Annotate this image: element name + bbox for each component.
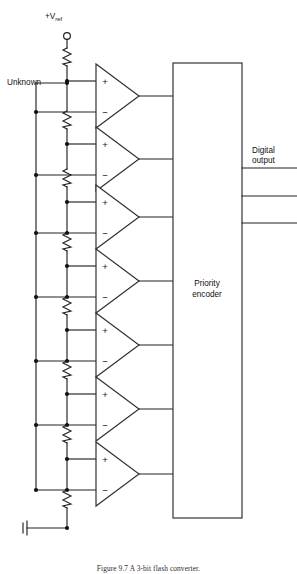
unknown-input-group: Unknown [7, 78, 69, 490]
comparator-2: + − [34, 127, 173, 191]
comparator-1: + − [34, 64, 173, 128]
vref-terminal-group: +Vref [45, 12, 70, 48]
comparator-7-ladder-junction-dot [65, 488, 69, 492]
vref-open-terminal [64, 33, 71, 40]
comparator-3-unknown-tap-dot [34, 231, 38, 235]
comparator-1-unknown-tap-dot [34, 110, 38, 114]
comparator-6-ladder-junction-dot [65, 423, 69, 427]
ground-symbol [23, 521, 27, 535]
comparator-6: + − [34, 377, 173, 441]
figure-caption-text: Figure 9.7 A 3-bit flash converter. [97, 564, 200, 573]
digital-output-label-line1: Digital [252, 146, 275, 155]
resistor-ladder [63, 48, 71, 528]
vref-label: +Vref [45, 12, 62, 22]
comparator-7-minus-sign: − [102, 485, 108, 496]
circuit-schematic: +Vref [0, 0, 297, 574]
comparator-3-plus-sign: + [102, 197, 108, 208]
comparator-2-minus-sign: − [102, 170, 108, 181]
ladder-resistor-2 [63, 111, 71, 129]
priority-encoder-label-line1: Priority [194, 279, 220, 288]
comparator-5-unknown-tap-dot [34, 359, 38, 363]
digital-output-label-line2: output [252, 156, 275, 165]
comparator-7-body [96, 442, 139, 506]
comparator-7-ladder-tap-dot [65, 457, 69, 461]
comparator-6-body [96, 377, 139, 441]
comparator-6-minus-sign: − [102, 420, 108, 431]
comparator-5-minus-sign: − [102, 356, 108, 367]
ladder-resistor-6 [63, 361, 71, 379]
figure-caption: Figure 9.7 A 3-bit flash converter. [0, 564, 297, 573]
vref-label-main: +V [45, 12, 56, 21]
flash-converter-figure: +Vref [0, 0, 297, 574]
comparator-5-plus-sign: + [102, 325, 108, 336]
comparator-1-minus-sign: − [102, 107, 108, 118]
comparator-2-ladder-tap-dot [65, 142, 69, 146]
comparator-4-unknown-tap-dot [34, 295, 38, 299]
ladder-resistor-1 [63, 48, 71, 66]
comparator-2-unknown-tap-dot [34, 173, 38, 177]
comparator-6-ladder-tap-dot [65, 392, 69, 396]
comparator-4-ladder-junction-dot [65, 295, 69, 299]
comparator-5-ladder-junction-dot [65, 359, 69, 363]
ladder-resistor-5 [63, 297, 71, 315]
comparator-4-body [96, 249, 139, 313]
comparator-4-plus-sign: + [102, 261, 108, 272]
comparator-4-ladder-tap-dot [65, 264, 69, 268]
comparator-4: + − [34, 249, 173, 313]
comparator-3-minus-sign: − [102, 228, 108, 239]
comparator-7-unknown-tap-dot [34, 488, 38, 492]
priority-encoder-block: Priority encoder [173, 63, 242, 518]
comparator-2-body [96, 127, 139, 191]
comparator-5-body [96, 313, 139, 377]
ladder-resistor-8 [63, 490, 71, 508]
ladder-resistor-4 [63, 233, 71, 251]
ground-connection-group [23, 521, 69, 535]
comparator-1-ladder-tap-dot [65, 79, 69, 83]
priority-encoder-label-line2: encoder [192, 290, 222, 299]
comparator-1-body [96, 64, 139, 128]
comparator-6-plus-sign: + [102, 389, 108, 400]
comparator-3-body [96, 185, 139, 249]
comparator-5: + − [34, 313, 173, 377]
ladder-resistor-3 [63, 169, 71, 187]
vref-label-subscript: ref [55, 16, 62, 22]
comparator-2-plus-sign: + [102, 139, 108, 150]
digital-output-group: Digital output [242, 146, 297, 223]
ground-junction-dot [65, 526, 69, 530]
ladder-resistor-7 [63, 425, 71, 443]
comparator-3-ladder-junction-dot [65, 231, 69, 235]
comparator-3: + − [34, 185, 173, 249]
comparator-7-plus-sign: + [102, 454, 108, 465]
comparator-7: + − [34, 442, 173, 506]
comparator-5-ladder-tap-dot [65, 328, 69, 332]
comparator-6-unknown-tap-dot [34, 423, 38, 427]
comparator-4-minus-sign: − [102, 292, 108, 303]
comparator-3-ladder-tap-dot [65, 200, 69, 204]
comparator-1-plus-sign: + [102, 76, 108, 87]
